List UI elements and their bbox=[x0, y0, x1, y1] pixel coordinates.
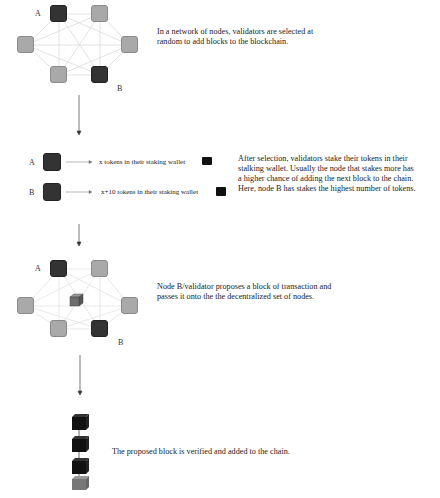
step4-description: The proposed block is verified and added… bbox=[112, 447, 352, 457]
figure-caption-cut-off bbox=[148, 489, 298, 498]
blockchain-icon bbox=[0, 0, 440, 498]
